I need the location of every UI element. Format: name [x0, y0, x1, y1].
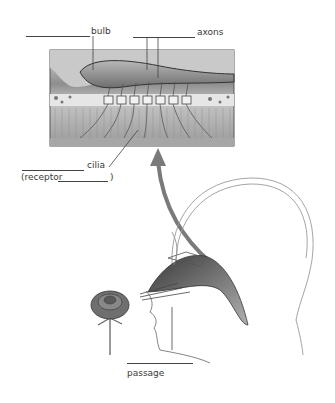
passage-blank[interactable]: [127, 363, 193, 364]
label-axons: axons: [197, 27, 223, 37]
olfactory-inset: [50, 50, 234, 146]
label-cilia: cilia: [87, 160, 105, 170]
diagram-artwork: [0, 0, 335, 403]
axons-blank[interactable]: [133, 37, 195, 38]
label-receptor-open: (receptor: [21, 172, 62, 182]
rose-icon: [91, 291, 129, 355]
label-passage: passage: [127, 368, 164, 378]
receptor-blank[interactable]: [58, 181, 108, 182]
cilia-blank[interactable]: [22, 170, 84, 171]
face-profile: [146, 291, 210, 363]
bulb-blank[interactable]: [26, 36, 90, 37]
curved-up-arrow-icon: [150, 148, 210, 262]
label-receptor-close: ): [110, 172, 114, 182]
label-bulb: bulb: [91, 26, 111, 36]
